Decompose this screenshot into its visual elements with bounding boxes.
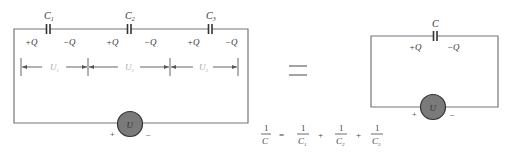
equivalent-circuit: C +Q −Q U + – [371,18,498,120]
svg-text:+: + [356,130,361,140]
charge-minus: −Q [447,42,460,52]
voltage-dimensions: U1 U2 U3 [21,58,238,76]
svg-text:C3: C3 [206,10,216,22]
svg-text:U3: U3 [199,62,209,73]
svg-text:=: = [279,130,284,140]
charge-plus: +Q [25,37,38,47]
svg-text:C: C [432,18,439,29]
charge-minus: −Q [225,37,238,47]
voltage-source: U + – [110,112,151,140]
svg-text:U2: U2 [125,62,135,73]
charge-plus: +Q [106,37,119,47]
svg-text:1: 1 [264,123,269,133]
svg-text:C1: C1 [44,10,54,22]
charge-minus: −Q [63,37,76,47]
charge-plus: +Q [409,42,422,52]
charge-plus: +Q [187,37,200,47]
source-minus: – [146,130,151,139]
svg-text:1: 1 [301,123,306,133]
svg-text:1: 1 [339,123,344,133]
svg-text:U: U [430,103,437,113]
svg-text:U: U [127,120,134,130]
source-plus: + [412,110,417,119]
svg-text:C3: C3 [372,136,381,147]
svg-text:1: 1 [375,123,380,133]
source-minus: – [450,110,455,119]
capacitor-series-diagram: C1 +Q −Q C2 +Q −Q C3 +Q −Q [0,0,509,154]
svg-text:C2: C2 [125,10,135,22]
svg-text:C1: C1 [298,136,307,147]
svg-text:U1: U1 [50,62,59,73]
series-circuit: C1 +Q −Q C2 +Q −Q C3 +Q −Q [14,10,248,139]
source-plus: + [110,130,115,139]
wire-left [371,36,433,107]
charge-minus: −Q [144,37,157,47]
svg-text:+: + [318,130,323,140]
equals-sign [289,66,307,75]
svg-text:C: C [262,136,269,146]
capacitor-c: C +Q −Q [409,18,460,52]
series-capacitance-formula: 1 C = 1 C1 + 1 C2 + 1 C3 [261,123,383,147]
svg-text:C2: C2 [336,136,345,147]
